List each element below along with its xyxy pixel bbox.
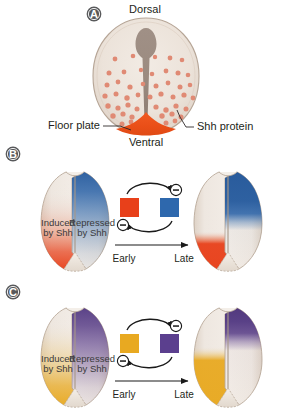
label-induced-c-line2: by Shh: [43, 363, 73, 374]
loop-minus-badge-bottom: [117, 219, 128, 230]
shh-protein-dot: [148, 95, 153, 100]
shh-protein-dot: [164, 69, 169, 74]
loop-arrow-bottom: [127, 357, 172, 368]
panel-b-repression-loop: [117, 183, 181, 232]
shh-protein-dot: [127, 84, 132, 89]
shh-protein-dot: [173, 119, 178, 124]
loop-node-induced: [120, 198, 139, 217]
shh-protein-dot: [178, 85, 183, 90]
panel-a: A Dorsal Floor plate Shh protein Ventral: [48, 3, 253, 148]
label-induced-b-line2: by Shh: [43, 227, 73, 238]
shh-protein-dot: [181, 92, 186, 97]
tube-right-half-signal: [225, 172, 262, 269]
shh-protein-dot: [135, 107, 140, 112]
shh-neural-tube-figure: A Dorsal Floor plate Shh protein Ventral…: [0, 0, 286, 412]
shh-protein-dot: [173, 103, 178, 108]
panel-b-badge: B: [6, 147, 21, 162]
label-early-c: Early: [113, 389, 136, 400]
label-ventral: Ventral: [129, 136, 163, 148]
shh-protein-dot: [153, 104, 158, 109]
shh-protein-dot: [129, 114, 134, 119]
shh-protein-dot: [115, 105, 120, 110]
shh-protein-dot: [120, 111, 125, 116]
shh-protein-dot: [176, 71, 181, 76]
panel-b-early-tube: Induced by Shh Repressed by Shh: [41, 172, 115, 271]
panel-a-badge: A: [87, 7, 102, 22]
shh-protein-dot: [139, 68, 143, 72]
label-early-b: Early: [113, 253, 136, 264]
loop-node-induced: [120, 334, 139, 353]
label-dorsal: Dorsal: [129, 3, 161, 15]
panel-c-repression-loop: [117, 319, 181, 368]
label-floor-plate: Floor plate: [48, 119, 100, 131]
panel-c-badge: C: [6, 285, 21, 300]
loop-arrow-top: [127, 183, 172, 194]
shh-protein-dot: [158, 91, 163, 96]
shh-protein-dot: [159, 113, 164, 118]
shh-protein-dot: [163, 107, 168, 112]
shh-protein-dot: [168, 56, 173, 61]
shh-protein-dot: [110, 113, 115, 118]
shh-protein-dot: [164, 121, 169, 126]
label-repressed-b-line2: by Shh: [77, 227, 107, 238]
shh-protein-dot: [186, 73, 191, 78]
shh-protein-dot: [188, 83, 193, 88]
shh-protein-dot: [107, 71, 112, 76]
shh-protein-dot: [184, 107, 189, 112]
panel-a-badge-label: A: [90, 8, 98, 20]
panel-b: B Induced by Shh Repressed by Shh: [6, 147, 262, 272]
shh-protein-dot: [124, 95, 129, 100]
shh-protein-dot: [131, 54, 136, 59]
shh-protein-dot: [150, 72, 155, 77]
loop-minus-badge-top: [170, 320, 181, 331]
label-shh-protein: Shh protein: [197, 120, 253, 132]
shh-protein-dot: [180, 58, 185, 63]
shh-protein-dot: [141, 82, 146, 87]
panel-c-late-tube: [194, 308, 262, 407]
shh-protein-dot: [116, 80, 121, 85]
panel-c-early-tube: Induced by Shh Repressed by Shh: [41, 308, 115, 407]
loop-arrow-top: [127, 319, 172, 330]
shh-protein-dot: [125, 102, 130, 107]
shh-protein-dot: [122, 70, 127, 75]
shh-protein-dot: [105, 83, 110, 88]
shh-protein-dot: [102, 93, 107, 98]
shh-protein-dot: [114, 92, 119, 97]
panel-b-late-tube: [194, 172, 262, 271]
shh-protein-dot: [171, 95, 176, 100]
loop-arrow-bottom: [127, 221, 172, 232]
panel-c: C Induced by Shh Repressed by Shh: [6, 285, 262, 408]
tube-right-half-signal: [225, 308, 262, 405]
loop-minus-badge-bottom: [117, 355, 128, 366]
panel-b-badge-label: B: [9, 148, 17, 160]
shh-protein-dot: [154, 84, 159, 89]
label-repressed-c-line2: by Shh: [77, 363, 107, 374]
shh-protein-dot: [113, 57, 118, 62]
loop-node-repressed: [160, 198, 179, 217]
shh-protein-dot: [105, 103, 110, 108]
label-late-b: Late: [174, 253, 194, 264]
loop-node-repressed: [160, 334, 179, 353]
shh-protein-dot: [191, 96, 196, 101]
shh-protein-dot: [169, 111, 174, 116]
loop-minus-badge-top: [170, 184, 181, 195]
shh-protein-dot: [136, 93, 141, 98]
panel-c-badge-label: C: [9, 286, 17, 298]
shh-protein-dot: [166, 81, 171, 86]
label-late-c: Late: [174, 389, 194, 400]
shh-protein-dot: [153, 55, 157, 59]
